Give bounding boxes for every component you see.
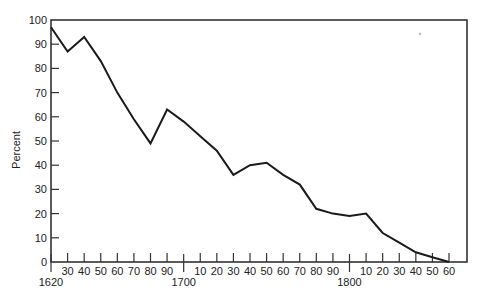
speck-mark (419, 33, 421, 35)
x-tick-label: 50 (95, 265, 107, 277)
x-tick-label: 60 (443, 265, 455, 277)
x-tick-label: 70 (294, 265, 306, 277)
y-tick-label: 100 (29, 14, 47, 26)
y-tick-label: 20 (35, 208, 47, 220)
x-tick-label: 50 (260, 265, 272, 277)
x-tick-label: 50 (426, 265, 438, 277)
x-tick-label: 10 (194, 265, 206, 277)
line-chart: 0102030405060708090100 16203040506070809… (0, 0, 481, 296)
y-tick-label: 90 (35, 38, 47, 50)
x-tick-label: 70 (128, 265, 140, 277)
y-axis-title: Percent (10, 131, 22, 169)
x-tick-label: 80 (144, 265, 156, 277)
y-tick-label: 30 (35, 183, 47, 195)
x-major-label: 1700 (171, 276, 195, 288)
x-tick-label: 80 (310, 265, 322, 277)
y-tick-label: 70 (35, 87, 47, 99)
x-major-label: 1800 (337, 276, 361, 288)
x-tick-label: 40 (410, 265, 422, 277)
x-tick-label: 30 (61, 265, 73, 277)
x-tick-label: 30 (393, 265, 405, 277)
y-tick-label: 60 (35, 111, 47, 123)
x-tick-label: 30 (227, 265, 239, 277)
x-tick-label: 10 (360, 265, 372, 277)
chart-background (0, 0, 481, 296)
x-tick-label: 20 (211, 265, 223, 277)
x-tick-label: 60 (111, 265, 123, 277)
y-tick-label: 80 (35, 62, 47, 74)
x-major-label: 1620 (39, 276, 63, 288)
y-tick-label: 40 (35, 159, 47, 171)
x-tick-label: 60 (277, 265, 289, 277)
x-tick-label: 40 (78, 265, 90, 277)
x-tick-label: 20 (377, 265, 389, 277)
y-tick-label: 10 (35, 232, 47, 244)
y-tick-label: 50 (35, 135, 47, 147)
x-tick-label: 40 (244, 265, 256, 277)
y-tick-label: 0 (41, 256, 47, 268)
